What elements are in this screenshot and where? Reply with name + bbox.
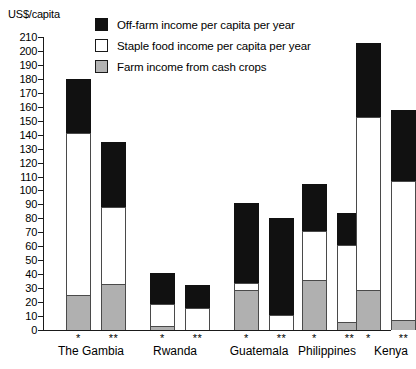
bar-segment-staple-food [150, 304, 175, 326]
y-axis-tick [38, 316, 44, 317]
bar-segment-staple-food [66, 133, 91, 295]
bar-guatemala-double[interactable] [269, 218, 294, 330]
x-axis-marker: ** [345, 332, 355, 344]
legend-item: Off-farm income per capita per year [95, 14, 395, 35]
bar-segment-staple-food [391, 181, 416, 321]
bar-segment-staple-food [302, 231, 327, 280]
x-axis-marker: ** [109, 332, 119, 344]
bar-segment-off-farm [101, 142, 126, 208]
bar-kenya-single[interactable] [356, 43, 381, 330]
y-axis-tick [38, 232, 44, 233]
bar-segment-cash-crops [101, 284, 126, 330]
y-axis-tick-label: 190 [20, 59, 37, 71]
bar-segment-off-farm [356, 43, 381, 117]
y-axis-tick [38, 274, 44, 275]
y-axis-tick [38, 163, 44, 164]
bar-segment-cash-crops [150, 326, 175, 330]
x-axis-marker: * [312, 332, 317, 344]
bar-the-gambia-single[interactable] [66, 79, 91, 330]
y-axis-tick [38, 93, 44, 94]
x-axis-marker: * [76, 332, 81, 344]
y-axis-tick-label: 90 [25, 198, 37, 210]
bar-rwanda-single[interactable] [150, 273, 175, 330]
black-swatch-icon [95, 18, 108, 31]
y-axis-tick [38, 135, 44, 136]
x-axis-group-label: Kenya [374, 344, 408, 358]
y-axis-tick [38, 51, 44, 52]
bar-segment-cash-crops [234, 290, 259, 330]
x-axis-marker: ** [193, 332, 203, 344]
bar-segment-cash-crops [66, 295, 91, 330]
y-axis-tick [38, 177, 44, 178]
bar-segment-staple-food [101, 207, 126, 284]
y-axis-tick-label: 30 [25, 282, 37, 294]
x-axis-marker: * [160, 332, 165, 344]
bar-segment-off-farm [391, 110, 416, 181]
y-axis-tick-label: 110 [20, 171, 37, 183]
y-axis-tick-label: 80 [25, 212, 37, 224]
y-axis-tick [38, 121, 44, 122]
legend-label: Off-farm income per capita per year [117, 19, 295, 31]
bar-segment-off-farm [234, 203, 259, 283]
y-axis-tick [38, 246, 44, 247]
y-axis-tick [38, 65, 44, 66]
y-axis-tick-label: 0 [31, 324, 37, 336]
bar-segment-off-farm [302, 184, 327, 231]
x-axis-marker: * [366, 332, 371, 344]
y-axis-tick-label: 210 [20, 31, 37, 43]
y-axis-tick [38, 37, 44, 38]
y-axis-tick-label: 130 [20, 143, 37, 155]
y-axis-tick-label: 160 [20, 101, 37, 113]
bar-segment-off-farm [269, 218, 294, 314]
y-axis-tick [38, 190, 44, 191]
bar-segment-off-farm [150, 273, 175, 304]
y-axis-title: US$/capita [8, 8, 60, 20]
bar-philippines-single[interactable] [302, 184, 327, 330]
x-axis-group-label: Guatemala [230, 344, 289, 358]
y-axis-tick-label: 170 [20, 87, 37, 99]
x-axis-group-label: The Gambia [58, 344, 124, 358]
x-axis-marker: * [244, 332, 249, 344]
y-axis-tick-label: 60 [25, 240, 37, 252]
bar-segment-cash-crops [391, 320, 416, 330]
y-axis-tick-label: 40 [25, 268, 37, 280]
y-axis-tick [38, 149, 44, 150]
bar-rwanda-double[interactable] [185, 285, 210, 330]
bar-the-gambia-double[interactable] [101, 142, 126, 330]
x-axis-group-label: Rwanda [153, 344, 197, 358]
y-axis-tick-label: 50 [25, 254, 37, 266]
y-axis-tick [38, 330, 44, 331]
y-axis-tick-label: 20 [25, 296, 37, 308]
bar-guatemala-single[interactable] [234, 203, 259, 330]
plot-area: 0102030405060708090100110120130140150160… [43, 37, 391, 331]
bar-segment-cash-crops [302, 280, 327, 330]
bar-segment-staple-food [185, 308, 210, 330]
y-axis-tick [38, 79, 44, 80]
x-axis-marker: ** [399, 332, 409, 344]
y-axis-tick-label: 70 [25, 226, 37, 238]
y-axis-tick-label: 150 [20, 115, 37, 127]
y-axis-tick-label: 120 [20, 157, 37, 169]
y-axis-tick [38, 302, 44, 303]
x-axis-marker: ** [277, 332, 287, 344]
y-axis-tick [38, 288, 44, 289]
bar-segment-staple-food [356, 117, 381, 290]
bar-segment-off-farm [66, 79, 91, 133]
bar-segment-staple-food [234, 283, 259, 290]
bar-segment-off-farm [185, 285, 210, 307]
bar-segment-staple-food [269, 315, 294, 330]
y-axis-tick [38, 204, 44, 205]
y-axis-tick [38, 107, 44, 108]
x-axis-group-label: Philippines [298, 344, 356, 358]
y-axis-tick-label: 200 [20, 45, 37, 57]
y-axis-tick-label: 100 [20, 184, 37, 196]
bar-segment-cash-crops [356, 290, 381, 330]
y-axis-tick-label: 10 [25, 310, 37, 322]
y-axis-tick [38, 218, 44, 219]
y-axis-tick [38, 260, 44, 261]
y-axis-tick-label: 180 [20, 73, 37, 85]
bar-kenya-double[interactable] [391, 110, 416, 330]
y-axis-tick-label: 140 [20, 129, 37, 141]
